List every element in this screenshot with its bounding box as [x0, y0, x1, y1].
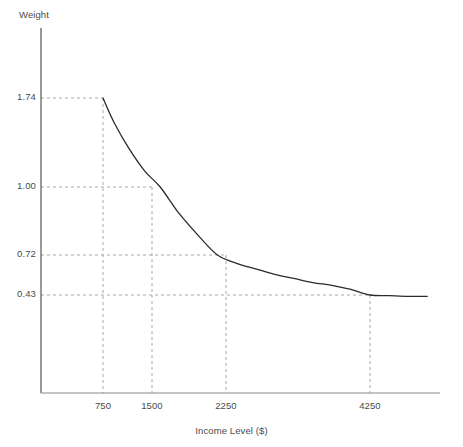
y-tick-label: 0.72: [0, 248, 36, 259]
guide-lines-horizontal: [41, 98, 370, 295]
x-tick-label: 1500: [127, 400, 177, 411]
y-tick-label: 1.74: [0, 91, 36, 102]
x-tick-label: 2250: [201, 400, 251, 411]
chart-container: Weight Income Level ($) 1.741.000.720.43…: [0, 0, 463, 447]
y-tick-label: 1.00: [0, 180, 36, 191]
x-tick-label: 4250: [345, 400, 395, 411]
chart-plot-area: [0, 0, 463, 447]
x-axis-title: Income Level ($): [0, 425, 463, 436]
y-axis-title: Weight: [19, 9, 49, 20]
guide-lines-vertical: [103, 98, 370, 393]
x-tick-label: 750: [78, 400, 128, 411]
y-tick-label: 0.43: [0, 288, 36, 299]
